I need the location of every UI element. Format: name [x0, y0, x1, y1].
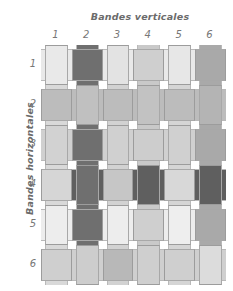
row-label-6: 6 [26, 258, 40, 269]
weave-cell-r4-c3 [103, 169, 134, 201]
row-label-1: 1 [26, 58, 40, 69]
weave-cell-r6-c6 [199, 245, 222, 285]
weave-cell-r5-c4 [133, 209, 164, 241]
row-label-5: 5 [26, 218, 40, 229]
weave-cell-r2-c3 [103, 89, 134, 121]
woven-strips-figure: Bandes verticales Bandes horizontales 12… [0, 0, 233, 291]
column-label-1: 1 [45, 29, 65, 40]
weave-cell-r2-c5 [164, 89, 195, 121]
weave-cell-r6-c2 [76, 245, 99, 285]
weave-cell-r4-c4 [137, 165, 160, 205]
weave-cell-r6-c5 [164, 249, 195, 281]
weave-cell-r1-c3 [107, 45, 130, 85]
weave-cell-r2-c1 [41, 89, 72, 121]
weave-grid [41, 45, 226, 285]
weave-cell-r3-c6 [195, 129, 226, 161]
column-label-3: 3 [107, 29, 127, 40]
weave-cell-r1-c2 [72, 49, 103, 81]
weave-cell-r3-c5 [168, 125, 191, 165]
column-label-4: 4 [138, 29, 158, 40]
weave-cell-r5-c6 [195, 209, 226, 241]
weave-cell-r4-c5 [164, 169, 195, 201]
chart-title-vertical-strips: Bandes verticales [55, 11, 225, 22]
weave-cell-r5-c1 [45, 205, 68, 245]
row-label-2: 2 [26, 98, 40, 109]
weave-cell-r5-c5 [168, 205, 191, 245]
weave-cell-r1-c1 [45, 45, 68, 85]
weave-cell-r6-c4 [137, 245, 160, 285]
weave-cell-r6-c1 [41, 249, 72, 281]
row-label-3: 3 [26, 138, 40, 149]
column-label-5: 5 [169, 29, 189, 40]
column-label-6: 6 [199, 29, 219, 40]
weave-cell-r3-c1 [45, 125, 68, 165]
weave-cell-r2-c6 [199, 85, 222, 125]
weave-cell-r4-c2 [76, 165, 99, 205]
weave-cell-r5-c3 [107, 205, 130, 245]
row-label-4: 4 [26, 178, 40, 189]
weave-cell-r6-c3 [103, 249, 134, 281]
weave-cell-r4-c6 [199, 165, 222, 205]
weave-cell-r4-c1 [41, 169, 72, 201]
weave-cell-r1-c5 [168, 45, 191, 85]
weave-cell-r2-c2 [76, 85, 99, 125]
weave-cell-r3-c3 [107, 125, 130, 165]
weave-cell-r1-c4 [133, 49, 164, 81]
weave-cell-r3-c4 [133, 129, 164, 161]
weave-cell-r2-c4 [137, 85, 160, 125]
row-axis-labels: 123456 [26, 45, 40, 285]
column-axis-labels: 123456 [40, 29, 226, 43]
weave-cell-r1-c6 [195, 49, 226, 81]
weave-cell-r3-c2 [72, 129, 103, 161]
column-label-2: 2 [76, 29, 96, 40]
weave-cell-r5-c2 [72, 209, 103, 241]
